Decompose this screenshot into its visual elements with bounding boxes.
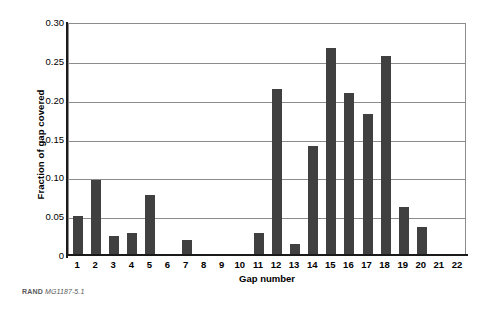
x-tick-label: 19 (393, 259, 413, 270)
x-tick-label: 3 (103, 259, 123, 270)
x-tick-label: 4 (121, 259, 141, 270)
bar (417, 227, 427, 255)
bar (272, 89, 282, 255)
x-tick-label: 5 (139, 259, 159, 270)
y-tick-label: 0 (36, 251, 64, 261)
x-axis-title: Gap number (68, 273, 466, 284)
bar (344, 93, 354, 255)
x-tick-label: 21 (429, 259, 449, 270)
x-tick-label: 10 (230, 259, 250, 270)
x-tick-label: 13 (284, 259, 304, 270)
bar (290, 244, 300, 255)
bar (363, 114, 373, 255)
bar (127, 233, 137, 255)
bar (254, 233, 264, 255)
bar (399, 207, 409, 255)
x-tick-label: 1 (67, 259, 87, 270)
x-tick-label: 16 (338, 259, 358, 270)
y-axis-tick-labels: 00.050.100.150.200.250.30 (33, 0, 64, 312)
bar (109, 236, 119, 255)
y-tick-label: 0.10 (36, 173, 64, 183)
y-tick-label: 0.15 (36, 135, 64, 145)
gridline (69, 179, 465, 180)
bar (326, 48, 336, 255)
bar (381, 56, 391, 255)
figure-document-id: MG1187-5.1 (45, 288, 84, 295)
x-tick-label: 22 (447, 259, 467, 270)
x-tick-label: 20 (411, 259, 431, 270)
gridline (69, 102, 465, 103)
x-tick-label: 2 (85, 259, 105, 270)
bar (91, 180, 101, 255)
x-tick-label: 14 (302, 259, 322, 270)
plot-area (68, 23, 466, 256)
y-tick-label: 0.05 (36, 212, 64, 222)
bar (182, 240, 192, 255)
rand-brand-label: RAND (22, 288, 43, 295)
figure: Fraction of gap covered 00.050.100.150.2… (0, 0, 491, 312)
gridline (69, 63, 465, 64)
bar (145, 195, 155, 255)
x-tick-label: 12 (266, 259, 286, 270)
x-tick-label: 17 (357, 259, 377, 270)
gridline (69, 141, 465, 142)
bar (73, 216, 83, 255)
y-tick-label: 0.30 (36, 18, 64, 28)
x-tick-label: 8 (194, 259, 214, 270)
x-tick-label: 9 (212, 259, 232, 270)
y-tick-label: 0.25 (36, 57, 64, 67)
x-tick-label: 15 (320, 259, 340, 270)
y-tick-label: 0.20 (36, 96, 64, 106)
x-axis-tick-labels: 12345678910111213141516171819202122 (68, 259, 466, 273)
x-tick-label: 6 (158, 259, 178, 270)
figure-footer: RAND MG1187-5.1 (22, 288, 84, 295)
x-tick-label: 18 (375, 259, 395, 270)
bar (308, 146, 318, 255)
x-tick-label: 7 (176, 259, 196, 270)
x-tick-label: 11 (248, 259, 268, 270)
